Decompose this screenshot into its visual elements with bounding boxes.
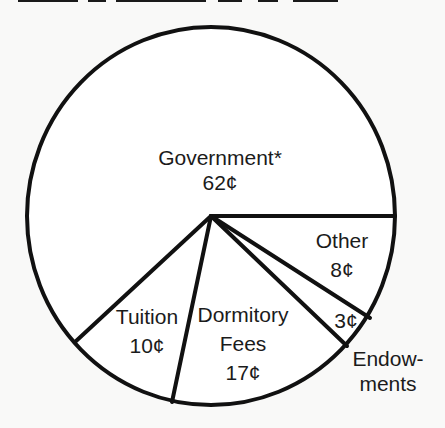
- label-dormitory-value: 17¢: [188, 360, 298, 385]
- label-dormitory: Dormitory Fees 17¢: [188, 302, 298, 385]
- label-government-value: 62¢: [140, 170, 300, 195]
- label-government-name: Government*: [140, 145, 300, 170]
- label-tuition: Tuition 10¢: [108, 304, 186, 358]
- label-other-name: Other: [302, 228, 382, 253]
- label-dormitory-line2: Fees: [188, 331, 298, 356]
- label-other-value: 8¢: [302, 257, 382, 282]
- label-endowments-line1: Endow-: [348, 346, 428, 371]
- label-government: Government* 62¢: [140, 145, 300, 195]
- label-endowments: Endow- ments: [348, 346, 428, 396]
- label-tuition-name: Tuition: [108, 304, 186, 329]
- label-tuition-value: 10¢: [108, 333, 186, 358]
- label-endowments-value: 3¢: [326, 308, 366, 333]
- label-endowments-line2: ments: [348, 371, 428, 396]
- label-other: Other 8¢: [302, 228, 382, 282]
- label-dormitory-line1: Dormitory: [188, 302, 298, 327]
